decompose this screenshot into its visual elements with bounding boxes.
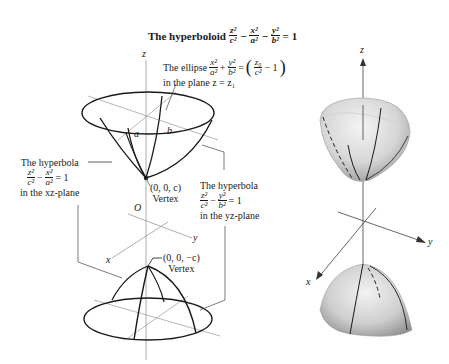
- top-vertex-label: (0, 0, c) Vertex: [150, 182, 181, 204]
- right-lower-sheet: [320, 264, 412, 336]
- right-x-axis-label: x: [306, 276, 310, 287]
- hyperbola-yz-label: The hyperbola z²c² − y²b² = 1 in the yz-…: [200, 180, 259, 221]
- right-z-arrow: [360, 58, 366, 66]
- bottom-vertex-label: (0, 0, −c) Vertex: [163, 252, 200, 274]
- right-y-arrow: [416, 236, 426, 243]
- left-x-axis: [112, 222, 168, 258]
- right-x-arrow: [316, 271, 323, 280]
- right-z-axis-label: z: [360, 44, 364, 55]
- semi-axis-b-label: b: [167, 125, 172, 136]
- left-y-axis-label: y: [193, 232, 197, 243]
- right-y-axis-label: y: [428, 236, 432, 247]
- top-ellipse: [82, 92, 214, 134]
- right-upper-sheet: [320, 98, 410, 181]
- semi-axis-a-label: a: [134, 128, 139, 139]
- left-y-axis: [128, 214, 192, 238]
- left-origin-label: O: [134, 202, 141, 213]
- left-z-axis-label: z: [142, 48, 146, 59]
- hyperbola-xz-label: The hyperbola z²c² − x²a² = 1 in the xz-…: [20, 157, 79, 198]
- left-x-axis-label: x: [106, 254, 110, 265]
- ellipse-label: The ellipse x²a² + y²b² = ( z₀c² − 1 ) i…: [163, 57, 286, 88]
